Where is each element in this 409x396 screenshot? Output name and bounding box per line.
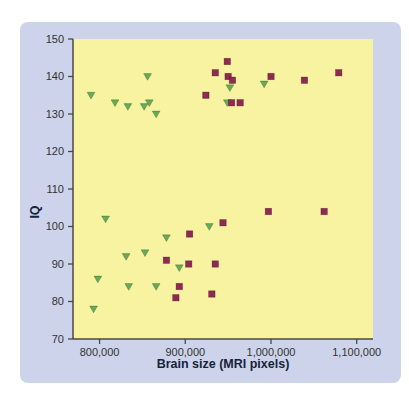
data-point-square <box>203 92 209 98</box>
data-point-square <box>173 295 179 301</box>
y-tick-label: 130 <box>46 108 64 120</box>
data-point-square <box>186 231 192 237</box>
data-point-square <box>209 291 215 297</box>
data-point-square <box>229 77 235 83</box>
data-point-square <box>228 100 234 106</box>
screenshot-page: 708090100110120130140150800,000900,0001,… <box>0 0 409 396</box>
data-point-square <box>176 283 182 289</box>
data-point-square <box>336 70 342 76</box>
data-point-square <box>220 220 226 226</box>
figure-panel: 708090100110120130140150800,000900,0001,… <box>20 22 401 383</box>
y-axis-title: IQ <box>28 197 44 227</box>
scatter-chart: 708090100110120130140150800,000900,0001,… <box>20 22 401 383</box>
data-point-square <box>186 261 192 267</box>
data-point-square <box>237 100 243 106</box>
y-tick-label: 140 <box>46 70 64 82</box>
y-tick-label: 120 <box>46 145 64 157</box>
y-tick-label: 100 <box>46 220 64 232</box>
x-axis-title: Brain size (MRI pixels) <box>73 357 373 371</box>
data-point-square <box>321 208 327 214</box>
data-point-square <box>212 70 218 76</box>
y-tick-label: 110 <box>46 183 64 195</box>
y-tick-label: 70 <box>52 333 64 345</box>
data-point-square <box>265 208 271 214</box>
data-point-square <box>163 257 169 263</box>
data-point-square <box>268 73 274 79</box>
y-tick-label: 150 <box>46 33 64 45</box>
y-tick-label: 80 <box>52 295 64 307</box>
data-point-square <box>212 261 218 267</box>
data-point-square <box>224 58 230 64</box>
data-point-square <box>301 77 307 83</box>
y-tick-label: 90 <box>52 258 64 270</box>
plot-area <box>73 39 373 339</box>
